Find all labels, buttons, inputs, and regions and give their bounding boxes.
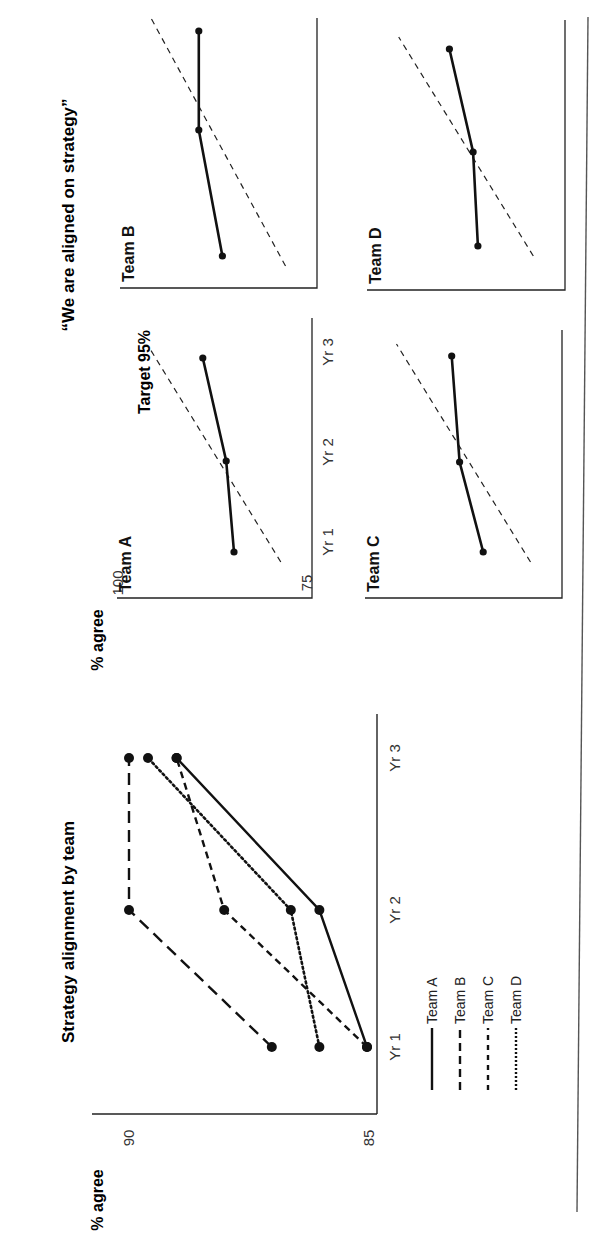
legend-label: Team D [508,976,524,1024]
strategy-alignment-chart: Strategy alignment by team % agree 90 85… [59,714,524,1231]
panel-label: Team D [367,227,384,284]
aligned-on-strategy-chart: “We are aligned on strategy” % agree 100… [59,18,565,671]
data-point [446,45,453,52]
data-point [219,252,226,259]
legend-item-team-d: Team D [508,976,524,1090]
data-point [474,242,481,249]
panel-label: Team A [117,536,134,592]
legend-item-team-b: Team B [452,977,468,1090]
team-line [452,356,484,552]
page-rule [577,17,588,1212]
legend-label: Team C [480,976,496,1024]
data-point [314,1042,324,1052]
data-point [448,352,455,359]
left-ytick-90: 90 [120,1130,137,1147]
panel-frame [367,20,565,290]
series-team-c [172,753,372,1052]
panel-frame [120,18,317,288]
left-series-layer [124,753,372,1052]
data-point [480,548,487,555]
data-point [267,1042,277,1052]
legend-item-team-a: Team A [424,977,440,1090]
panel-label: Team B [120,225,137,282]
data-point [362,1042,372,1052]
data-point [124,905,134,915]
team-line [199,31,223,256]
panel-frame [365,330,562,598]
series-team-a [172,753,372,1052]
team-line [449,49,478,246]
data-point [456,458,463,465]
data-point [124,753,134,763]
left-chart-ylabel: % agree [89,1169,106,1230]
data-point [172,753,182,763]
panel-team-d: Team D [367,20,565,290]
target-line [148,346,281,562]
left-chart-title: Strategy alignment by team [59,821,78,1043]
small-multiples: Team ATeam BTeam CTeam D [117,18,565,598]
left-xtick-yr2: Yr 2 [386,896,403,924]
target-line [399,37,534,256]
data-point [314,905,324,915]
right-xtick-yr1: Yr 1 [319,528,336,556]
team-line [203,358,234,552]
panel-team-c: Team C [365,330,562,598]
right-chart-title: “We are aligned on strategy” [59,98,78,331]
right-xtick-yr3: Yr 3 [319,338,336,366]
left-xtick-yr1: Yr 1 [386,1033,403,1061]
data-point [199,354,206,361]
figure-canvas: Strategy alignment by team % agree 90 85… [0,0,600,1245]
series-team-d [143,753,324,1052]
panel-team-b: Team B [120,18,317,288]
left-xtick-yr3: Yr 3 [386,744,403,772]
data-point [195,126,202,133]
data-point [470,148,477,155]
target-label: Target 95% [136,330,153,414]
legend: Team ATeam BTeam CTeam D [424,976,524,1090]
data-point [286,905,296,915]
series-team-b [124,753,277,1052]
target-line [397,344,531,562]
legend-item-team-c: Team C [480,976,496,1090]
right-xtick-yr2: Yr 2 [319,438,336,466]
data-point [143,753,153,763]
figure-page: Strategy alignment by team % agree 90 85… [0,0,600,1245]
right-chart-ylabel: % agree [89,609,106,670]
data-point [223,457,230,464]
panel-label: Team C [365,535,382,592]
left-ytick-85: 85 [360,1130,377,1147]
legend-label: Team B [452,977,468,1024]
data-point [195,27,202,34]
data-point [219,905,229,915]
data-point [230,548,237,555]
legend-label: Team A [424,977,440,1024]
